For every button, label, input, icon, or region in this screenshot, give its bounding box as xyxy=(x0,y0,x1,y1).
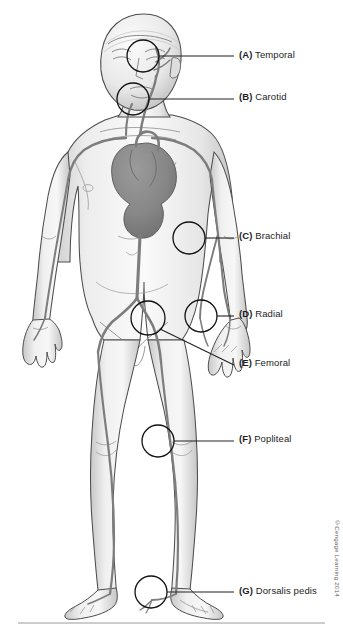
label-femoral: (E) Femoral xyxy=(239,358,290,368)
body-silhouette xyxy=(23,14,250,619)
label-temporal: (A) Temporal xyxy=(239,50,295,60)
label-term: Temporal xyxy=(253,49,295,60)
label-brachial: (C) Brachial xyxy=(239,231,290,241)
copyright-credit: ©Cengage Learning 2014 xyxy=(334,519,341,597)
label-key: (D) xyxy=(239,308,253,319)
label-dorsalis-pedis: (G) Dorsalis pedis xyxy=(239,586,317,596)
label-key: (A) xyxy=(239,49,253,60)
label-key: (F) xyxy=(239,433,251,444)
label-term: Femoral xyxy=(252,357,290,368)
label-key: (G) xyxy=(239,585,253,596)
label-term: Carotid xyxy=(253,91,287,102)
body-illustration xyxy=(0,0,343,635)
label-key: (B) xyxy=(239,91,253,102)
label-key: (C) xyxy=(239,230,253,241)
anatomy-figure: (A) Temporal(B) Carotid(C) Brachial(D) R… xyxy=(0,0,343,635)
label-term: Radial xyxy=(253,308,283,319)
label-term: Brachial xyxy=(253,230,291,241)
label-popliteal: (F) Popliteal xyxy=(239,434,292,444)
label-key: (E) xyxy=(239,357,252,368)
label-carotid: (B) Carotid xyxy=(239,92,287,102)
label-term: Dorsalis pedis xyxy=(253,585,317,596)
label-radial: (D) Radial xyxy=(239,309,283,319)
label-term: Popliteal xyxy=(251,433,291,444)
